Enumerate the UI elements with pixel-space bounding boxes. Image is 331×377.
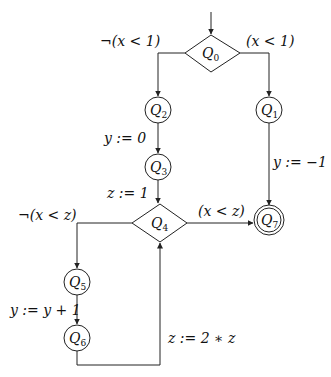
edge-q6-q4 <box>77 243 160 365</box>
edge-q0-q2 <box>158 53 185 96</box>
node-q1: Q1 <box>256 97 282 123</box>
label-not-x-lt-z: ¬(x < z) <box>18 207 77 223</box>
label-z-assign-2z: z := 2 ∗ z <box>167 330 236 346</box>
node-q7-accepting: Q7 <box>254 205 284 235</box>
edge-q0-q1 <box>240 53 269 96</box>
edge-q4-q5 <box>77 223 132 268</box>
control-flow-diagram: ¬(x < 1) (x < 1) y := 0 z := 1 y := −1 (… <box>0 0 331 377</box>
node-q2: Q2 <box>145 97 171 123</box>
label-x-lt-1: (x < 1) <box>246 33 294 49</box>
label-y-assign-minus-1: y := −1 <box>272 154 327 170</box>
node-q3: Q3 <box>145 154 171 180</box>
node-q6: Q6 <box>64 325 90 351</box>
node-q0: Q0 <box>185 35 240 72</box>
label-y-assign-y-plus-1: y := y + 1 <box>9 302 81 318</box>
label-y-assign-0: y := 0 <box>103 130 146 146</box>
label-x-lt-z: (x < z) <box>198 203 245 219</box>
node-q5: Q5 <box>64 269 90 295</box>
label-z-assign-1: z := 1 <box>106 185 149 201</box>
label-not-x-lt-1: ¬(x < 1) <box>100 33 160 49</box>
node-q4: Q4 <box>132 204 187 242</box>
